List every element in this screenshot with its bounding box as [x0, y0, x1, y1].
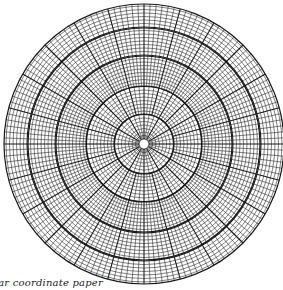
polar-graph-paper [0, 0, 283, 290]
center-hole [139, 139, 149, 149]
figure-caption: Polar coordinate paper [0, 277, 103, 288]
